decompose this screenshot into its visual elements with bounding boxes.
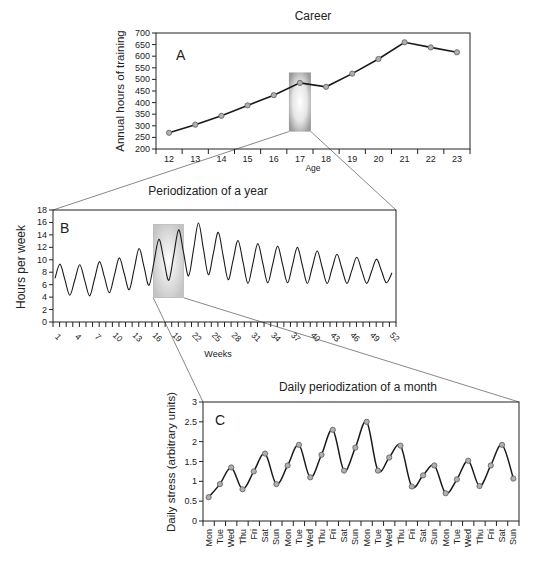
y-tick-label: 600 xyxy=(135,51,150,61)
x-tick-label-day: Tue xyxy=(215,529,225,544)
data-point xyxy=(420,473,425,478)
y-tick-label: 400 xyxy=(135,98,150,108)
data-point xyxy=(271,93,276,98)
x-tick-label: 40 xyxy=(309,330,323,344)
y-axis-label-annual-hours: Annual hours of training xyxy=(114,30,126,151)
x-tick-label-day: Tue xyxy=(294,529,304,544)
y-tick-label: 2.5 xyxy=(184,417,197,427)
data-line-weekly-hours xyxy=(55,223,392,296)
data-point xyxy=(350,71,355,76)
data-point xyxy=(166,130,171,135)
x-tick-label-day: Sat xyxy=(260,529,270,543)
x-tick-label: 22 xyxy=(190,330,204,344)
x-tick-label: 14 xyxy=(216,154,226,164)
y-tick-label: 0 xyxy=(42,317,47,327)
x-tick-label: 10 xyxy=(111,330,125,344)
data-point xyxy=(499,442,504,447)
y-tick-label: 2 xyxy=(192,437,197,447)
x-tick-label-day: Sun xyxy=(429,529,439,545)
y-tick-label: 14 xyxy=(37,230,47,240)
x-tick-label: 46 xyxy=(348,330,362,344)
x-tick-label: 13 xyxy=(131,330,145,344)
x-tick-label: 31 xyxy=(249,330,263,344)
y-tick-label: 10 xyxy=(37,255,47,265)
data-point xyxy=(402,40,407,45)
data-point xyxy=(193,122,198,127)
data-point xyxy=(409,484,414,489)
y-tick-label: 0 xyxy=(192,516,197,526)
data-point xyxy=(330,427,335,432)
y-tick-label: 3 xyxy=(192,397,197,407)
data-point xyxy=(308,475,313,480)
y-tick-label: 650 xyxy=(135,40,150,50)
x-tick-label-day: Sat xyxy=(339,529,349,543)
x-tick-label-day: Fri xyxy=(486,529,496,540)
x-tick-label-day: Sat xyxy=(418,529,428,543)
y-axis-label-daily-stress: Daily stress (arbitrary units) xyxy=(165,392,177,532)
y-tick-label: 250 xyxy=(135,132,150,142)
x-tick-label: 4 xyxy=(73,332,84,343)
plot-frame-c xyxy=(203,402,519,521)
y-tick-label: 4 xyxy=(42,292,47,302)
x-tick-label: 19 xyxy=(170,330,184,344)
data-point xyxy=(206,495,211,500)
data-point xyxy=(428,45,433,50)
x-tick-label: 34 xyxy=(269,330,283,344)
x-tick-label: 21 xyxy=(400,154,410,164)
data-point xyxy=(398,443,403,448)
x-tick-label: 12 xyxy=(164,154,174,164)
x-tick-label: 16 xyxy=(150,330,164,344)
data-point xyxy=(262,451,267,456)
x-tick-label: 16 xyxy=(269,154,279,164)
data-point xyxy=(319,452,324,457)
data-point xyxy=(443,491,448,496)
data-point xyxy=(454,50,459,55)
x-axis-label-weeks: Weeks xyxy=(204,349,232,359)
x-tick-label: 43 xyxy=(329,330,343,344)
y-tick-label: 1.5 xyxy=(184,457,197,467)
x-tick-label-day: Tue xyxy=(452,529,462,544)
chart-title-year: Periodization of a year xyxy=(148,184,267,198)
data-point xyxy=(217,482,222,487)
y-tick-label: 450 xyxy=(135,86,150,96)
data-point xyxy=(387,455,392,460)
data-point xyxy=(297,80,302,85)
data-point xyxy=(229,465,234,470)
data-point xyxy=(376,56,381,61)
chart-month-periodization: Daily periodization of a month Daily str… xyxy=(165,380,519,547)
y-tick-label: 700 xyxy=(135,28,150,38)
x-tick-label-day: Fri xyxy=(407,529,417,540)
y-tick-label: 12 xyxy=(37,242,47,252)
y-tick-label: 16 xyxy=(37,217,47,227)
x-tick-label-day: Mon xyxy=(283,529,293,547)
data-point xyxy=(285,463,290,468)
x-tick-label: 15 xyxy=(243,154,253,164)
y-tick-label: 350 xyxy=(135,109,150,119)
x-tick-label: 17 xyxy=(295,154,305,164)
x-tick-label: 49 xyxy=(368,330,382,344)
x-axis-label-age: Age xyxy=(305,163,320,173)
x-tick-label: 1 xyxy=(53,332,64,343)
highlight-weeks-16-20 xyxy=(153,224,183,297)
data-point xyxy=(375,468,380,473)
y-tick-label: 6 xyxy=(42,280,47,290)
chart-title-month: Daily periodization of a month xyxy=(279,380,437,394)
panel-label-a: A xyxy=(176,47,186,63)
x-tick-label: 19 xyxy=(347,154,357,164)
x-tick-label-day: Wed xyxy=(305,529,315,547)
connector-b-to-c-left xyxy=(153,298,203,402)
y-tick-label: 2 xyxy=(42,305,47,315)
x-tick-label-day: Wed xyxy=(384,529,394,547)
figure-canvas: Career Annual hours of training Age A 20… xyxy=(0,0,533,561)
x-tick-label-day: Thu xyxy=(317,529,327,545)
x-tick-label-day: Sun xyxy=(350,529,360,545)
x-tick-label: 22 xyxy=(426,154,436,164)
x-tick-label-day: Sat xyxy=(497,529,507,543)
data-point xyxy=(323,84,328,89)
x-tick-label-day: Wed xyxy=(226,529,236,547)
x-tick-label-day: Mon xyxy=(204,529,214,547)
x-tick-label-day: Fri xyxy=(249,529,259,540)
chart-year-periodization: Periodization of a year Hours per week W… xyxy=(14,184,402,359)
x-tick-label-day: Thu xyxy=(238,529,248,545)
x-tick-label-day: Sun xyxy=(508,529,518,545)
